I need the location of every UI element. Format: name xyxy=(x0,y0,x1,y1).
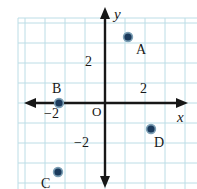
point-a-label: A xyxy=(136,43,146,57)
y-axis-arrow-down-icon xyxy=(100,176,110,188)
point-d-label: D xyxy=(154,136,164,150)
y-tick-label-neg2: −2 xyxy=(74,136,89,150)
origin-label: O xyxy=(92,105,101,118)
y-tick-label-2: 2 xyxy=(85,55,92,69)
coordinate-plane-svg xyxy=(0,0,197,189)
point-a-marker xyxy=(124,33,133,42)
coordinate-plane-figure: y x O 2 −2 2 −2 A B C D xyxy=(0,0,197,189)
x-axis-arrow-left-icon xyxy=(24,98,36,108)
y-axis xyxy=(100,7,110,188)
y-axis-arrow-up-icon xyxy=(100,7,110,19)
x-tick-label-2: 2 xyxy=(140,82,147,96)
x-axis-arrow-right-icon xyxy=(176,98,188,108)
x-axis-label: x xyxy=(177,110,184,125)
point-c-label: C xyxy=(41,177,50,189)
point-b-label: B xyxy=(52,82,61,96)
x-tick-label-neg2: −2 xyxy=(44,107,59,121)
point-c-marker xyxy=(54,168,63,177)
y-axis-label: y xyxy=(114,7,121,22)
point-d-marker xyxy=(147,125,156,134)
